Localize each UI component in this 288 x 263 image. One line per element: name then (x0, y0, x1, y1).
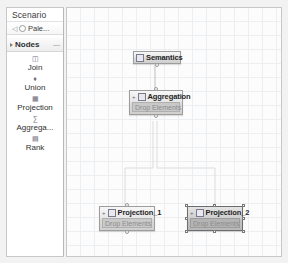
palette-item-aggregation[interactable]: ∑ Aggrega... (7, 115, 63, 133)
node-input-port[interactable] (125, 203, 129, 207)
node-title-bar[interactable]: + Projection_2 (188, 207, 242, 218)
expand-plus-icon[interactable]: + (102, 210, 106, 216)
resize-handle[interactable] (242, 230, 245, 233)
back-arrow-icon[interactable]: ◁ (11, 25, 17, 32)
projection-icon: ▦ (7, 95, 63, 103)
expand-plus-icon[interactable]: + (132, 94, 136, 100)
palette-item-rank[interactable]: ▤ Rank (7, 135, 63, 153)
node-body[interactable]: + Projection_1 Drop Elements (99, 206, 155, 231)
node-title-bar[interactable]: + Projection_1 (100, 207, 154, 218)
node-body[interactable]: + Projection_2 Drop Elements (187, 206, 243, 231)
drop-elements-label: Drop Elements (135, 104, 181, 111)
palette-item-label: Rank (7, 143, 63, 153)
node-title-bar[interactable]: + Aggregation (130, 91, 182, 102)
resize-handle[interactable] (213, 230, 216, 233)
palette-label: Pale... (28, 24, 49, 33)
resize-handle[interactable] (242, 204, 245, 207)
palette-item-union[interactable]: ♦ Union (7, 75, 63, 93)
node-palette-list: ◫ Join ♦ Union ▦ Projection ∑ Aggrega...… (7, 52, 63, 153)
palette-item-label: Projection (7, 103, 63, 113)
scenario-sidebar: Scenario ◁ Pale... Nodes — ◫ Join ♦ Unio… (6, 7, 64, 257)
connector-aggregation-projection-1 (125, 121, 153, 206)
resize-handle[interactable] (213, 204, 216, 207)
aggregation-icon (138, 93, 146, 101)
drop-elements-zone[interactable]: Drop Elements (132, 102, 180, 112)
node-label: Aggregation (148, 92, 191, 101)
nodes-section-label: Nodes (15, 40, 53, 49)
palette-item-projection[interactable]: ▦ Projection (7, 95, 63, 113)
palette-item-label: Union (7, 83, 63, 93)
scenario-canvas[interactable]: Semantics + Aggregation Drop Elements (66, 7, 282, 257)
projection-icon (196, 209, 204, 217)
palette-item-label: Aggrega... (7, 123, 63, 133)
collapse-marker-icon[interactable]: — (53, 41, 60, 48)
palette-item-join[interactable]: ◫ Join (7, 55, 63, 73)
triangle-right-icon[interactable] (10, 43, 13, 47)
canvas-node-projection-1[interactable]: + Projection_1 Drop Elements (99, 206, 155, 231)
canvas-node-projection-2[interactable]: + Projection_2 Drop Elements (187, 206, 243, 231)
palette-toolbar[interactable]: ◁ Pale... (7, 21, 63, 35)
node-body[interactable]: + Aggregation Drop Elements (129, 90, 183, 115)
drop-elements-label: Drop Elements (193, 220, 239, 227)
canvas-node-aggregation[interactable]: + Aggregation Drop Elements (129, 90, 183, 115)
rank-icon: ▤ (7, 135, 63, 143)
drop-elements-zone[interactable]: Drop Elements (102, 218, 152, 228)
palette-dot-icon (19, 25, 26, 32)
scenario-editor-window: Scenario ◁ Pale... Nodes — ◫ Join ♦ Unio… (0, 0, 288, 263)
union-icon: ♦ (7, 75, 63, 83)
join-icon: ◫ (7, 55, 63, 63)
semantics-icon (136, 54, 144, 62)
drop-elements-label: Drop Elements (105, 220, 151, 227)
resize-handle[interactable] (242, 217, 245, 220)
node-title-bar[interactable]: Semantics (134, 52, 186, 63)
palette-item-label: Join (7, 63, 63, 73)
resize-handle[interactable] (185, 230, 188, 233)
resize-handle[interactable] (185, 204, 188, 207)
connector-aggregation-projection-2 (157, 121, 215, 206)
node-output-port[interactable] (125, 230, 129, 234)
node-label: Projection_1 (118, 208, 162, 217)
resize-handle[interactable] (185, 217, 188, 220)
nodes-section-header[interactable]: Nodes — (7, 38, 63, 52)
drop-elements-zone[interactable]: Drop Elements (190, 218, 240, 228)
page-title: Scenario (7, 8, 63, 21)
aggregation-icon: ∑ (7, 115, 63, 123)
node-input-port[interactable] (154, 87, 158, 91)
node-output-port[interactable] (155, 63, 159, 67)
node-output-port[interactable] (154, 114, 158, 118)
projection-icon (108, 209, 116, 217)
node-label: Semantics (146, 53, 183, 62)
canvas-node-semantics[interactable]: Semantics (133, 51, 181, 64)
expand-plus-icon[interactable]: + (190, 210, 194, 216)
